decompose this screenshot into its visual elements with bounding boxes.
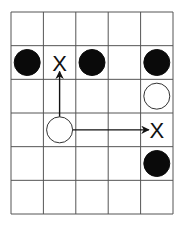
black-stone-icon [14, 50, 40, 76]
black-stone-icon [144, 50, 170, 76]
white-stone-icon [144, 83, 170, 109]
white-stone-icon [47, 117, 73, 143]
black-stone-icon [144, 151, 170, 177]
x-marker: X [52, 51, 67, 76]
game-board-diagram: XX [0, 0, 183, 226]
black-stone-icon [79, 50, 105, 76]
x-marker: X [149, 118, 164, 143]
